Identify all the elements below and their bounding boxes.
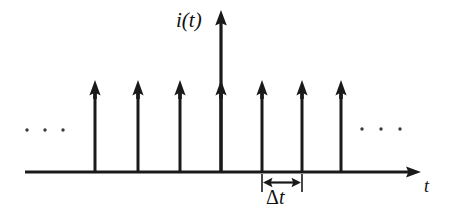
ellipsis-dot: [379, 127, 382, 130]
impulse-5: [256, 80, 267, 172]
impulse-arrowhead: [215, 80, 226, 99]
ellipsis-dot: [61, 128, 64, 131]
delta-t-variable: t: [279, 186, 285, 208]
impulse-4: [215, 80, 226, 172]
impulse-7: [335, 80, 346, 172]
horizontal-axis-group: [25, 166, 421, 177]
i-axis-label: i(t): [176, 8, 202, 33]
impulse-3: [174, 80, 185, 172]
impulse-arrowhead: [174, 80, 185, 99]
ellipsis-dot: [43, 128, 46, 131]
ellipsis-dot: [360, 127, 363, 130]
impulse-arrowhead: [89, 80, 100, 99]
impulse-arrowhead: [296, 80, 307, 99]
delta-symbol: Δ: [266, 186, 279, 208]
t-axis-label: t: [424, 176, 429, 197]
left-ellipsis: [25, 128, 64, 131]
right-ellipsis: [360, 127, 401, 130]
ellipsis-dot: [398, 127, 401, 130]
impulse-arrowhead: [256, 80, 267, 99]
impulse-train-group: [89, 80, 346, 172]
delta-t-label: Δt: [266, 186, 284, 209]
impulse-train-figure: i(t) t Δt: [0, 0, 451, 220]
impulse-arrowhead: [335, 80, 346, 99]
impulse-arrowhead: [132, 80, 143, 99]
impulse-2: [132, 80, 143, 172]
impulse-train-plot: [0, 0, 451, 220]
impulse-1: [89, 80, 100, 172]
ellipsis-dot: [25, 128, 28, 131]
impulse-6: [296, 80, 307, 172]
